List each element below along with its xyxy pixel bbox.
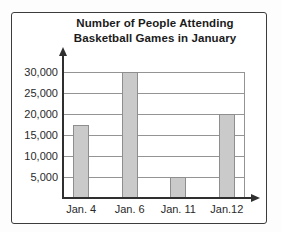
bar-jan-6	[122, 72, 138, 198]
bar-jan-4	[73, 125, 89, 199]
bar-jan-12	[219, 114, 235, 198]
x-tick-label: Jan.12	[195, 203, 259, 216]
gridline-30000	[63, 72, 245, 73]
y-axis-arrow-icon	[59, 47, 67, 56]
gridline-25000	[63, 93, 245, 94]
y-tick-label: 5,000	[10, 171, 58, 184]
gridline-5000	[63, 177, 245, 178]
gridline-20000	[63, 114, 245, 115]
y-tick-label: 30,000	[10, 66, 58, 79]
y-tick-label: 10,000	[10, 150, 58, 163]
y-tick-label: 15,000	[10, 129, 58, 142]
chart-title-line-2: Basketball Games in January	[55, 31, 255, 46]
x-axis-line	[62, 197, 252, 199]
gridline-15000	[63, 135, 245, 136]
x-axis-arrow-icon	[251, 194, 260, 202]
worksheet-page: Number of People Attending Basketball Ga…	[0, 0, 282, 232]
bar-jan-11	[170, 177, 186, 198]
chart-title-line-1: Number of People Attending	[55, 16, 255, 31]
y-tick-label: 25,000	[10, 87, 58, 100]
gridline-10000	[63, 156, 245, 157]
plot-right-border	[244, 72, 245, 198]
chart-title: Number of People Attending Basketball Ga…	[55, 16, 255, 45]
y-axis-line	[62, 54, 64, 198]
y-tick-label: 20,000	[10, 108, 58, 121]
